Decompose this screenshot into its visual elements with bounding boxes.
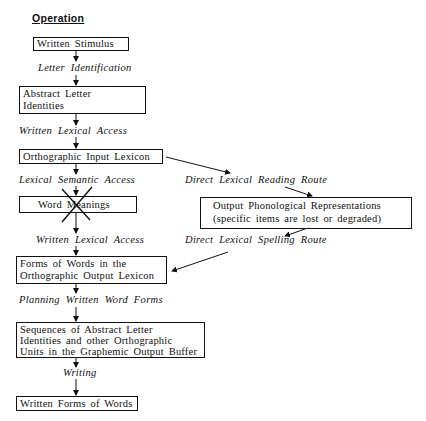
label-written-lexical-access-1: Written Lexical Access [19, 125, 127, 136]
box-text: Written Forms of Words [20, 398, 132, 409]
label-writing: Writing [63, 367, 97, 378]
box-written-forms-of-words: Written Forms of Words [16, 396, 138, 411]
box-orthographic-input-lexicon: Orthographic Input Lexicon [19, 149, 163, 164]
label-letter-identification: Letter Identification [38, 62, 132, 73]
label-lexical-semantic-access: Lexical Semantic Access [19, 174, 135, 185]
box-text: Written Stimulus [37, 38, 114, 49]
box-text-line-1: Abstract Letter [23, 88, 142, 100]
box-text-line-1: Output Phonological Representations [213, 199, 408, 212]
box-output-phonological-representations: Output Phonological Representations (spe… [200, 197, 412, 229]
label-direct-lexical-reading-route: Direct Lexical Reading Route [185, 174, 327, 185]
box-text-line-2: Orthographic Output Lexicon [20, 270, 163, 282]
page-title: Operation [32, 12, 84, 24]
box-abstract-letter-identities: Abstract Letter Identities [19, 86, 146, 114]
box-written-stimulus: Written Stimulus [33, 37, 129, 51]
box-text-line-1: Sequences of Abstract Letter [20, 324, 201, 335]
box-graphemic-output-buffer: Sequences of Abstract Letter Identities … [16, 322, 205, 358]
box-text-line-2: Identities [23, 100, 142, 112]
label-written-lexical-access-2: Written Lexical Access [36, 234, 144, 245]
box-text-line-2: (specific items are lost or degraded) [213, 212, 408, 225]
label-planning-written-word-forms: Planning Written Word Forms [19, 294, 163, 305]
label-direct-lexical-spelling-route: Direct Lexical Spelling Route [185, 234, 327, 245]
box-text: Orthographic Input Lexicon [23, 151, 150, 162]
box-text: Word Meanings [38, 199, 110, 210]
box-text-line-2: Identities and other Orthographic [20, 335, 201, 346]
box-orthographic-output-lexicon: Forms of Words in the Orthographic Outpu… [16, 256, 167, 284]
box-text-line-3: Units in the Graphemic Output Buffer [20, 346, 201, 357]
box-word-meanings: Word Meanings [19, 196, 137, 213]
box-text-line-1: Forms of Words in the [20, 258, 163, 270]
